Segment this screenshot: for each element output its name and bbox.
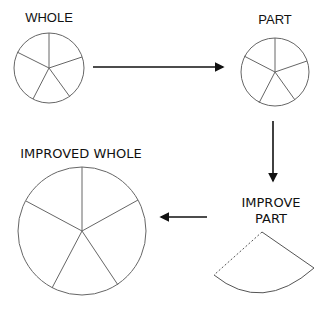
improve-part-label-line1: IMPROVE <box>241 195 300 210</box>
improve-part-node: IMPROVE PART <box>214 195 314 293</box>
part-node: PART <box>241 12 309 106</box>
improved-whole-node: IMPROVED WHOLE <box>18 146 146 295</box>
improved-whole-label: IMPROVED WHOLE <box>20 146 142 161</box>
whole-label: WHOLE <box>25 10 73 25</box>
improve-part-label-line2: PART <box>255 211 287 226</box>
flow-diagram: WHOLE PART IMPROVE PART <box>0 0 330 311</box>
improved-sector-icon <box>214 232 314 293</box>
part-label: PART <box>258 12 292 27</box>
whole-node: WHOLE <box>14 10 84 103</box>
improved-whole-pie-icon <box>18 167 146 295</box>
whole-pie-icon <box>14 33 84 103</box>
part-pie-icon <box>241 38 309 106</box>
